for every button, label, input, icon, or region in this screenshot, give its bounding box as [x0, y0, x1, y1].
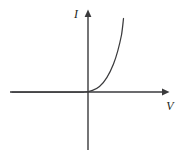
diode-iv-curve: [12, 19, 124, 93]
plot-area: I V: [0, 0, 190, 159]
up-arrow-icon: [85, 10, 92, 18]
current-axis-label: I: [73, 7, 79, 21]
right-arrow-icon: [162, 88, 170, 95]
voltage-axis-label: V: [166, 99, 175, 113]
iv-characteristic-figure: I V: [0, 0, 190, 159]
